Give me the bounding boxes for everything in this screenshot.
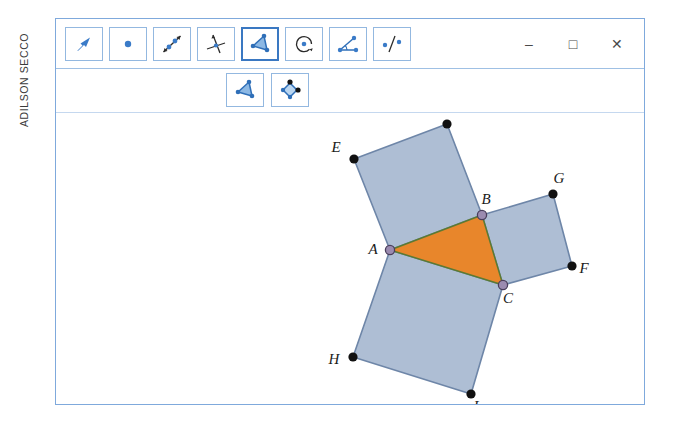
minimize-icon: – <box>525 37 533 51</box>
tool-polygon-sub[interactable] <box>226 73 264 107</box>
tool-rigid-polygon-sub[interactable] <box>271 73 309 107</box>
point-label-I: I <box>473 398 480 404</box>
geometry-canvas[interactable]: ABCDEFGHI <box>56 113 644 404</box>
point-label-G: G <box>554 170 565 186</box>
close-icon: ✕ <box>611 37 623 51</box>
point-F[interactable] <box>567 261 576 270</box>
polygon-icon <box>233 78 257 102</box>
line-through-points-icon <box>160 32 184 56</box>
maximize-button[interactable]: □ <box>564 35 582 53</box>
point-label-D: D <box>443 113 455 116</box>
polygon-submenu <box>226 73 309 107</box>
point-label-E: E <box>330 139 340 155</box>
maximize-icon: □ <box>569 37 577 51</box>
tool-circle[interactable] <box>285 27 323 61</box>
circle-center-point-icon <box>292 32 316 56</box>
point-label-B: B <box>481 191 490 207</box>
tool-perpendicular[interactable] <box>197 27 235 61</box>
point-label-A: A <box>367 241 378 257</box>
secondary-toolbar <box>56 69 644 113</box>
polygon-icon <box>248 32 272 56</box>
tool-move[interactable] <box>65 27 103 61</box>
minimize-button[interactable]: – <box>520 35 538 53</box>
app-window: – □ ✕ <box>55 18 645 405</box>
point-label-F: F <box>578 260 589 276</box>
point-C[interactable] <box>498 280 507 289</box>
perpendicular-line-icon <box>204 32 228 56</box>
geometry-figure: ABCDEFGHI <box>56 113 644 404</box>
tool-polygon[interactable] <box>241 27 279 61</box>
point-A[interactable] <box>385 245 394 254</box>
point-D[interactable] <box>442 119 451 128</box>
point-label-C: C <box>503 290 514 306</box>
tool-line[interactable] <box>153 27 191 61</box>
credit-label: ADILSON SECCO <box>18 0 34 160</box>
primary-toolbar: – □ ✕ <box>56 19 644 69</box>
arrow-pointer-icon <box>72 32 96 56</box>
angle-icon <box>336 32 360 56</box>
point-G[interactable] <box>548 189 557 198</box>
tool-point[interactable] <box>109 27 147 61</box>
point-E[interactable] <box>349 154 358 163</box>
close-button[interactable]: ✕ <box>608 35 626 53</box>
point-label-H: H <box>328 351 341 367</box>
point-H[interactable] <box>348 352 357 361</box>
tool-reflect[interactable] <box>373 27 411 61</box>
point-B[interactable] <box>477 210 486 219</box>
rigid-polygon-icon <box>278 78 302 102</box>
point-icon <box>116 32 140 56</box>
tool-angle[interactable] <box>329 27 367 61</box>
window-controls: – □ ✕ <box>520 19 636 69</box>
reflect-about-line-icon <box>380 32 404 56</box>
